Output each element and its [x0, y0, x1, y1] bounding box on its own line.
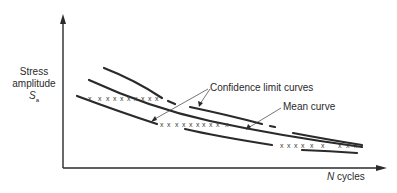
y-axis-arrow-icon — [60, 14, 66, 24]
svg-text:x: x — [167, 121, 171, 128]
svg-text:x: x — [148, 95, 152, 102]
x-axis-label: N cycles — [327, 171, 365, 183]
sn-diagram: x x x x x x x x x x x x x x x x x x x x … — [0, 0, 397, 193]
y-axis-symbol: Sa — [8, 90, 60, 106]
svg-text:x: x — [310, 142, 314, 149]
confidence-arrow-lower-icon — [151, 116, 157, 122]
confidence-leader-upper — [200, 89, 210, 104]
svg-text:x: x — [127, 95, 131, 102]
confidence-arrow-upper-icon — [198, 101, 203, 107]
svg-text:x: x — [106, 95, 110, 102]
svg-text:x: x — [160, 121, 164, 128]
x-axis-label-text: cycles — [337, 171, 365, 182]
x-axis-symbol: N — [327, 171, 334, 182]
svg-text:x: x — [287, 142, 291, 149]
svg-text:x: x — [280, 142, 284, 149]
svg-text:x: x — [120, 95, 124, 102]
y-axis-label-line2: amplitude — [12, 78, 55, 89]
svg-text:x: x — [98, 95, 102, 102]
svg-text:x: x — [294, 142, 298, 149]
svg-text:x: x — [209, 121, 213, 128]
svg-text:x: x — [134, 95, 138, 102]
y-symbol-subscript: a — [36, 97, 39, 103]
svg-text:x: x — [155, 95, 159, 102]
svg-text:x: x — [182, 121, 186, 128]
y-symbol-main: S — [29, 90, 36, 101]
svg-text:x: x — [216, 121, 220, 128]
svg-text:x: x — [196, 121, 200, 128]
mean-curve-annotation: Mean curve — [283, 101, 335, 113]
svg-text:x: x — [338, 142, 342, 149]
svg-text:x: x — [141, 95, 145, 102]
svg-text:x: x — [113, 95, 117, 102]
svg-text:x: x — [189, 121, 193, 128]
svg-text:x: x — [202, 121, 206, 128]
svg-text:x: x — [225, 121, 229, 128]
mean-leader — [248, 108, 281, 128]
svg-text:x: x — [175, 121, 179, 128]
y-axis-label: Stress amplitude Sa — [8, 66, 60, 106]
svg-text:x: x — [88, 95, 92, 102]
svg-text:x: x — [346, 142, 350, 149]
x-axis-arrow-icon — [376, 165, 387, 171]
y-axis-label-line1: Stress — [20, 66, 48, 77]
svg-text:x: x — [321, 142, 325, 149]
confidence-limit-annotation: Confidence limit curves — [210, 82, 313, 94]
svg-text:x: x — [301, 142, 305, 149]
svg-text:x: x — [354, 142, 358, 149]
